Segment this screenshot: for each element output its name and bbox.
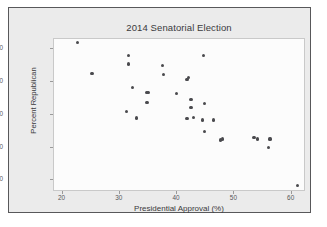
y-axis-tick-label: 60: [0, 77, 3, 84]
screenshot-root: 2014 Senatorial Election Percent Republi…: [0, 0, 327, 227]
scatter-point: [189, 98, 192, 101]
scatter-point: [161, 64, 164, 67]
scatter-point: [131, 86, 134, 89]
scatter-point: [267, 146, 270, 149]
scatter-point: [162, 73, 165, 76]
scatter-point: [90, 72, 93, 75]
scatter-point: [187, 76, 190, 79]
scatter-point: [268, 137, 271, 140]
scatter-point-layer: [9, 8, 310, 212]
scatter-point: [135, 116, 138, 119]
scatter-point: [203, 102, 206, 105]
chart-figure-panel: 2014 Senatorial Election Percent Republi…: [8, 7, 311, 213]
scatter-point: [76, 41, 79, 44]
scatter-point: [125, 110, 128, 113]
scatter-point: [145, 101, 148, 104]
scatter-point: [256, 137, 259, 140]
scatter-point: [192, 116, 195, 119]
scatter-point: [203, 130, 206, 133]
scatter-point: [201, 118, 204, 121]
y-axis-tick-label: 70: [0, 44, 3, 51]
y-axis-tick-label: 40: [0, 143, 3, 150]
scatter-point: [185, 117, 188, 120]
scatter-point: [212, 118, 215, 121]
scatter-point: [296, 184, 299, 187]
y-axis-tick-label: 30: [0, 175, 3, 182]
scatter-point: [189, 106, 192, 109]
scatter-point: [221, 137, 224, 140]
scatter-point: [127, 62, 130, 65]
scatter-point: [175, 92, 178, 95]
scatter-point: [202, 54, 205, 57]
scatter-point: [127, 54, 130, 57]
scatter-point: [146, 91, 149, 94]
y-axis-tick-label: 50: [0, 110, 3, 117]
